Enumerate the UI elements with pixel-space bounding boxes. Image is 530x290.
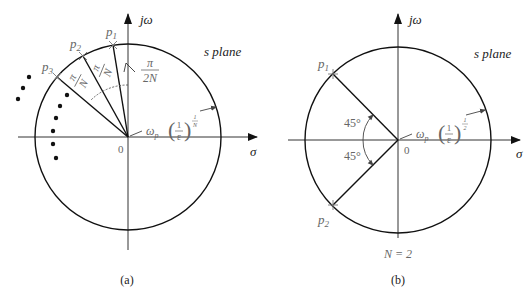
radius-arrow-b xyxy=(466,110,485,115)
pole-label-p1-a: p1 xyxy=(105,24,117,41)
svg-text:): ) xyxy=(454,120,461,145)
angle-label-45-lower: 45° xyxy=(344,149,361,163)
panel-a: jω σ 0 s plane p1 p2 p3 π N π N π 2N ωp … xyxy=(16,12,258,287)
svg-text:π: π xyxy=(65,72,78,83)
svg-text:(: ( xyxy=(438,120,445,145)
pole-label-p1-b: p1 xyxy=(317,56,329,73)
origin-label-b: 0 xyxy=(404,144,410,156)
svg-text:ωp: ωp xyxy=(146,124,158,140)
svg-text:(: ( xyxy=(168,117,175,142)
svg-text:N: N xyxy=(76,77,91,91)
svg-text:1: 1 xyxy=(194,114,197,120)
jw-arrow-a xyxy=(124,13,132,24)
svg-text:): ) xyxy=(184,117,191,142)
svg-text:1: 1 xyxy=(464,117,467,123)
pole-label-p2-b: p2 xyxy=(317,212,330,229)
sigma-label-b: σ xyxy=(516,146,523,161)
order-label-b: N = 2 xyxy=(383,247,412,261)
angle-label-pi-2n: π 2N xyxy=(141,56,159,85)
svg-text:1: 1 xyxy=(447,123,452,133)
caption-b: (b) xyxy=(391,273,405,287)
sigma-arrow-b xyxy=(511,136,521,144)
angle-arc-upper-b xyxy=(363,115,373,140)
pole-label-p2-a: p2 xyxy=(69,36,82,53)
svg-text:1: 1 xyxy=(177,120,182,130)
plane-label-a-text: s plane xyxy=(204,44,241,59)
ray-p2-b xyxy=(333,140,398,205)
plane-label-a: s plane xyxy=(204,44,241,59)
pole-marker-p3 xyxy=(53,73,61,81)
pole-label-p3-a: p3 xyxy=(41,59,54,76)
angle-arc-lower-b xyxy=(363,140,373,165)
jw-label-a: jω xyxy=(138,12,153,27)
radius-label-a: ωp ( 1 ε ) 1 N xyxy=(146,114,198,142)
plane-label-b: s plane xyxy=(474,46,511,61)
angle-label-pi-n-1: π N xyxy=(87,59,115,81)
svg-text:2N: 2N xyxy=(143,71,158,85)
caption-a: (a) xyxy=(120,273,133,287)
pi-2n-bracket xyxy=(124,63,135,72)
svg-text:2: 2 xyxy=(464,125,467,131)
radius-label-b: ωp ( 1 ε ) 1 2 xyxy=(416,117,468,145)
radius-leader-b xyxy=(400,134,412,139)
sigma-label-a: σ xyxy=(250,144,257,159)
angle-arc-a xyxy=(91,85,128,100)
figure-canvas: jω σ 0 s plane p1 p2 p3 π N π N π 2N ωp … xyxy=(0,0,530,290)
svg-text:N: N xyxy=(100,66,114,79)
radius-leader-a xyxy=(130,131,142,136)
svg-text:π: π xyxy=(147,56,154,70)
radius-arrow-a xyxy=(200,107,216,111)
ray-p1-b xyxy=(333,74,398,140)
jw-label-b: jω xyxy=(407,12,422,27)
jw-arrow-b xyxy=(394,13,402,24)
svg-text:ωp: ωp xyxy=(416,127,428,143)
sigma-arrow-a xyxy=(248,133,258,141)
panel-b: jω σ 0 s plane p1 p2 45° 45° ωp ( 1 ε ) … xyxy=(288,12,523,287)
svg-text:ε: ε xyxy=(177,131,181,142)
continuation-dots-a xyxy=(16,75,69,160)
angle-label-45-upper: 45° xyxy=(344,116,361,130)
pole-marker-p2 xyxy=(79,52,87,60)
svg-text:ε: ε xyxy=(447,134,451,145)
svg-text:N: N xyxy=(192,122,198,128)
angle-label-pi-n-2: π N xyxy=(63,68,92,92)
origin-label-a: 0 xyxy=(118,143,124,155)
